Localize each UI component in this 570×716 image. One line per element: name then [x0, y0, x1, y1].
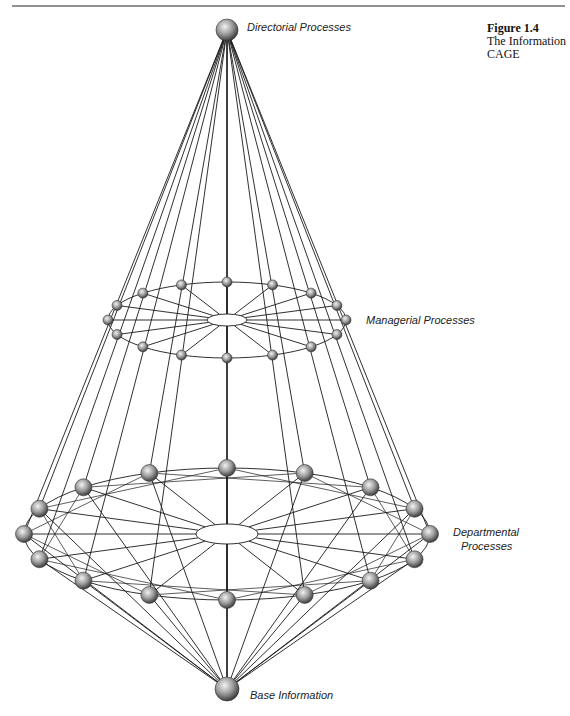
departmental-node [75, 479, 92, 496]
departmental-node [362, 479, 379, 496]
departmental-node [296, 465, 313, 482]
managerial-node [103, 315, 113, 325]
managerial-node [176, 350, 186, 360]
managerial-node [176, 280, 186, 290]
label-departmental-2: Processes [461, 540, 512, 552]
managerial-node [112, 330, 122, 340]
directorial-node [216, 19, 238, 41]
managerial-node [332, 330, 342, 340]
departmental-node [362, 572, 379, 589]
managerial-node [306, 288, 316, 298]
departmental-node [219, 460, 236, 477]
label-departmental-1: Departmental [453, 526, 519, 538]
departmental-node [16, 526, 33, 543]
managerial-node [138, 288, 148, 298]
managerial-node [222, 353, 232, 363]
departmental-node [422, 526, 439, 543]
managerial-node [138, 342, 148, 352]
figure-title: The Information CAGE [487, 34, 566, 61]
base-node [215, 677, 239, 701]
figure-caption: Figure 1.4 The Information CAGE [487, 22, 570, 61]
managerial-node [268, 280, 278, 290]
managerial-node [332, 300, 342, 310]
departmental-node [406, 551, 423, 568]
managerial-node [341, 315, 351, 325]
label-managerial: Managerial Processes [366, 314, 475, 326]
managerial-node [268, 350, 278, 360]
departmental-node [141, 465, 158, 482]
managerial-node [222, 277, 232, 287]
departmental-node [75, 572, 92, 589]
label-base: Base Information [250, 689, 333, 701]
managerial-node [112, 300, 122, 310]
departmental-node [141, 586, 158, 603]
managerial-node [306, 342, 316, 352]
departmental-node [406, 500, 423, 517]
departmental-node [219, 592, 236, 609]
information-cage-diagram [0, 0, 570, 716]
departmental-node [296, 586, 313, 603]
departmental-node [31, 551, 48, 568]
departmental-node [31, 500, 48, 517]
label-directorial: Directorial Processes [247, 21, 351, 33]
